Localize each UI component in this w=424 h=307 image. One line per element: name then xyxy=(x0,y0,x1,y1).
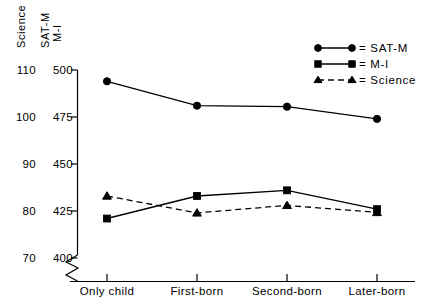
legend-label-science: = Science xyxy=(359,74,416,86)
left-tick-label-70: 70 xyxy=(23,252,36,264)
sat-tick-label-500: 500 xyxy=(53,64,73,76)
axis-title-sat-m: SAT-M xyxy=(39,12,51,48)
data-point-science xyxy=(283,201,292,208)
left-tick-label-90: 90 xyxy=(23,158,36,170)
legend-marker-circle-icon xyxy=(315,45,322,52)
line-chart: Science SAT-M M-I 110 100 90 80 70 500 4… xyxy=(0,0,424,307)
axis-title-m-i: M-I xyxy=(51,24,63,42)
series-science xyxy=(103,192,382,216)
legend-entry-sat-m[interactable]: = SAT-M xyxy=(315,42,409,54)
data-point-sat-m xyxy=(103,78,110,85)
series-line-m-i xyxy=(107,190,377,218)
sat-tick-label-475: 475 xyxy=(53,111,73,123)
data-point-sat-m xyxy=(373,115,380,122)
x-label-first-born: First-born xyxy=(170,285,223,297)
series-line-science xyxy=(107,196,377,213)
left-tick-label-110: 110 xyxy=(17,64,36,76)
data-point-sat-m xyxy=(283,103,290,110)
legend-marker-square-icon xyxy=(349,61,355,67)
left-tick-label-100: 100 xyxy=(16,111,36,123)
legend-marker-square-icon xyxy=(315,61,321,67)
x-label-later-born: Later-born xyxy=(348,285,405,297)
series-layer xyxy=(103,78,382,222)
left-tick-label-80: 80 xyxy=(23,205,36,217)
x-label-only-child: Only child xyxy=(80,285,135,297)
legend-label-sat-m: = SAT-M xyxy=(359,42,408,54)
legend-marker-circle-icon xyxy=(349,45,356,52)
series-sat-m xyxy=(103,78,380,123)
chart-canvas: Science SAT-M M-I 110 100 90 80 70 500 4… xyxy=(0,0,424,307)
axis-title-science: Science xyxy=(15,5,27,48)
data-point-m-i xyxy=(194,193,201,200)
sat-tick-label-400: 400 xyxy=(53,252,73,264)
data-point-science xyxy=(103,192,112,199)
data-point-sat-m xyxy=(193,102,200,109)
legend: = SAT-M = M-I = Science xyxy=(314,42,416,86)
series-m-i xyxy=(104,187,381,222)
data-point-m-i xyxy=(284,187,291,194)
data-point-m-i xyxy=(104,215,111,222)
series-line-sat-m xyxy=(107,81,377,119)
sat-tick-label-425: 425 xyxy=(53,205,73,217)
legend-entry-m-i[interactable]: = M-I xyxy=(315,58,389,70)
sat-tick-label-450: 450 xyxy=(53,158,73,170)
legend-label-m-i: = M-I xyxy=(359,58,389,70)
x-label-second-born: Second-born xyxy=(252,285,322,297)
legend-entry-science[interactable]: = Science xyxy=(314,74,416,86)
